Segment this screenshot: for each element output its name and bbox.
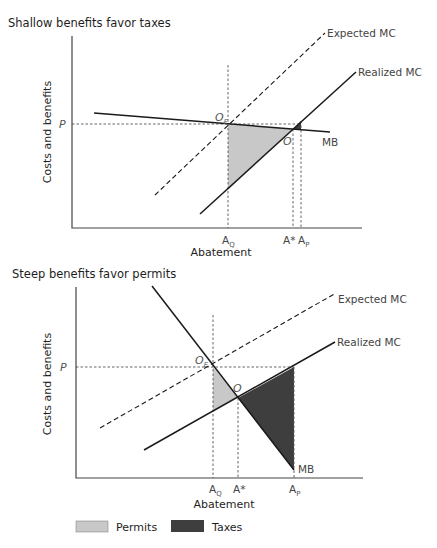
oe-point-label: OE bbox=[215, 111, 229, 126]
top-y-axis-label: Costs and benefits bbox=[41, 81, 54, 184]
permits-legend-label: Permits bbox=[116, 521, 157, 534]
mb-curve bbox=[94, 113, 330, 132]
expected-mc-label: Expected MC bbox=[338, 293, 407, 305]
bottom-panel: Steep benefits favor permits Expected MC… bbox=[12, 267, 407, 511]
realized-mc-curve bbox=[144, 342, 335, 450]
astar-tick-label: A* bbox=[233, 483, 245, 495]
legend: Permits Taxes bbox=[76, 520, 243, 534]
bottom-y-axis-label: Costs and benefits bbox=[41, 333, 54, 436]
taxes-swatch bbox=[171, 520, 204, 532]
mb-label: MB bbox=[322, 136, 338, 148]
expected-mc-label: Expected MC bbox=[327, 27, 396, 39]
taxes-deadweight-area bbox=[238, 367, 294, 470]
o-point-label: O bbox=[283, 135, 292, 148]
taxes-legend-label: Taxes bbox=[211, 521, 243, 534]
diagram-canvas: Shallow benefits favor taxes Expected MC… bbox=[0, 0, 437, 548]
realized-mc-label: Realized MC bbox=[337, 336, 401, 348]
top-panel-title: Shallow benefits favor taxes bbox=[8, 16, 171, 30]
o-point-label: O bbox=[233, 382, 242, 395]
price-label: P bbox=[60, 361, 67, 374]
price-label: P bbox=[59, 118, 66, 131]
top-x-axis-label: Abatement bbox=[190, 246, 252, 259]
realized-mc-label: Realized MC bbox=[358, 66, 422, 78]
astar-tick-label: A* bbox=[283, 234, 295, 246]
mb-label: MB bbox=[298, 463, 314, 475]
ap-tick-label: AP bbox=[298, 234, 309, 249]
aq-tick-label: AQ bbox=[209, 483, 222, 498]
permits-swatch bbox=[76, 521, 108, 532]
bottom-panel-title: Steep benefits favor permits bbox=[12, 267, 176, 281]
top-panel: Shallow benefits favor taxes Expected MC… bbox=[8, 16, 422, 259]
ap-tick-label: AP bbox=[289, 483, 300, 498]
bottom-x-axis-label: Abatement bbox=[193, 498, 255, 511]
